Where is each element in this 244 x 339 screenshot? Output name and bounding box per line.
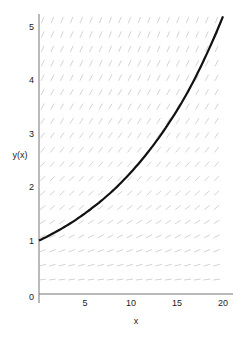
slope-mark (138, 104, 142, 110)
slope-mark (185, 205, 190, 209)
slope-mark (59, 235, 65, 238)
slope-mark (147, 89, 150, 95)
slope-mark (68, 264, 75, 266)
slope-mark (215, 104, 219, 110)
slope-mark (195, 118, 199, 124)
slope-mark (128, 17, 131, 23)
x-tick-label: 15 (172, 298, 182, 308)
slope-mark (204, 235, 210, 238)
slope-mark (206, 31, 209, 37)
slope-mark (59, 220, 65, 224)
slope-mark (80, 60, 83, 66)
slope-mark (146, 279, 153, 280)
slope-mark (205, 75, 208, 81)
slope-mark (61, 60, 64, 66)
slope-mark (107, 220, 113, 224)
slope-mark (80, 31, 83, 37)
slope-mark (88, 264, 95, 266)
slope-mark (41, 17, 44, 23)
slope-mark (205, 118, 209, 124)
slope-mark (204, 205, 209, 209)
slope-mark (195, 147, 199, 152)
slope-mark (148, 60, 151, 66)
slope-mark (107, 250, 113, 253)
slope-mark (117, 250, 123, 253)
slope-mark (186, 60, 189, 66)
slope-mark (176, 89, 179, 95)
slope-mark (196, 104, 200, 110)
slope-mark (118, 133, 122, 139)
slope-mark (40, 191, 45, 196)
slope-mark (49, 250, 55, 253)
slope-mark (156, 191, 161, 196)
slope-mark (50, 147, 54, 152)
slope-mark (49, 264, 56, 266)
slope-mark (167, 104, 171, 110)
slope-mark (88, 250, 94, 253)
slope-mark (40, 250, 46, 253)
slope-mark (156, 162, 160, 167)
slope-mark (70, 46, 73, 52)
slope-mark (89, 176, 94, 181)
slope-mark (99, 46, 102, 52)
slope-mark (59, 205, 64, 209)
slope-mark (167, 31, 170, 37)
slope-mark (157, 147, 161, 152)
slope-mark (204, 250, 210, 253)
slope-mark (108, 133, 112, 139)
slope-mark (165, 264, 172, 266)
slope-mark (194, 220, 200, 224)
solution-curve (39, 16, 223, 240)
slope-mark (78, 264, 85, 266)
slope-mark (118, 104, 122, 110)
slope-mark (60, 147, 64, 152)
slope-mark (167, 89, 170, 95)
slope-mark (186, 17, 189, 23)
y-tick-label: 3 (29, 129, 34, 139)
slope-mark (109, 118, 113, 124)
slope-mark (138, 17, 141, 23)
x-axis-label: x (134, 316, 139, 326)
slope-mark (41, 147, 45, 152)
slope-mark (80, 118, 84, 124)
slope-mark (108, 176, 113, 181)
slope-mark (60, 162, 64, 167)
slope-mark (90, 60, 93, 66)
slope-mark (109, 46, 112, 52)
slope-mark (157, 104, 160, 110)
slope-mark (147, 133, 151, 139)
slope-mark (79, 205, 84, 209)
slope-mark (61, 46, 64, 52)
slope-mark (137, 205, 142, 209)
slope-mark (41, 75, 44, 81)
slope-mark (108, 162, 112, 167)
slope-mark (107, 264, 114, 266)
slope-mark (185, 220, 191, 224)
slope-mark (126, 250, 132, 253)
slope-mark (60, 89, 63, 95)
slope-mark (98, 205, 103, 209)
slope-mark (157, 60, 160, 66)
slope-mark (175, 191, 180, 196)
slope-mark (186, 118, 190, 124)
slope-mark (195, 133, 199, 139)
slope-mark (97, 279, 104, 280)
slope-mark (99, 118, 103, 124)
slope-mark (128, 104, 131, 110)
slope-mark (98, 191, 103, 196)
slope-mark (119, 60, 122, 66)
slope-mark (128, 31, 131, 37)
slope-mark (215, 133, 219, 139)
slope-mark (167, 75, 170, 81)
slope-mark (98, 235, 104, 238)
slope-mark (118, 89, 121, 95)
slope-mark (186, 46, 189, 52)
slope-mark (213, 279, 220, 280)
slope-mark (146, 264, 153, 266)
slope-mark (138, 31, 141, 37)
slope-mark (50, 205, 55, 209)
slope-mark (166, 176, 171, 181)
slope-mark (136, 250, 142, 253)
slope-mark (184, 279, 191, 280)
slope-mark (157, 46, 160, 52)
